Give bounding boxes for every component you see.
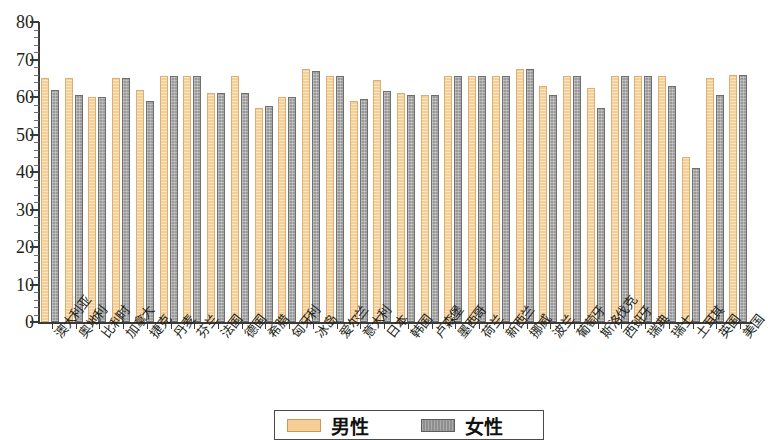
y-minor-tick-mark (34, 240, 39, 241)
y-minor-tick-mark (34, 165, 39, 166)
bar-female (621, 76, 629, 322)
y-minor-tick-mark (34, 307, 39, 308)
y-tick-mark (30, 209, 39, 211)
bar-male (278, 97, 286, 322)
bar-female (170, 76, 178, 322)
x-tick-mark (194, 323, 195, 329)
bar-group (562, 22, 586, 322)
bar-male (611, 76, 619, 322)
x-tick-mark (313, 323, 314, 329)
bar-male (136, 90, 144, 323)
x-tick-mark (455, 323, 456, 329)
x-tick-mark (99, 323, 100, 329)
bar-male (563, 76, 571, 322)
y-minor-tick-mark (34, 195, 39, 196)
y-tick-mark (30, 134, 39, 136)
x-tick-mark (479, 323, 480, 329)
bar-female (716, 95, 724, 322)
y-minor-tick-mark (34, 37, 39, 38)
bar-male (729, 75, 737, 323)
y-minor-tick-mark (34, 262, 39, 263)
x-tick-mark (550, 323, 551, 329)
bar-group (705, 22, 729, 322)
bar-male (302, 69, 310, 322)
bar-female (217, 93, 225, 322)
bar-male (207, 93, 215, 322)
bar-group (135, 22, 159, 322)
bar-group (301, 22, 325, 322)
y-tick-mark (30, 21, 39, 23)
legend-label-female: 女性 (465, 412, 503, 439)
x-tick-mark (171, 323, 172, 329)
y-minor-tick-mark (34, 292, 39, 293)
bar-group (467, 22, 491, 322)
x-axis-tick-labels: 澳大利亚奥地利比利时加拿大捷克丹麦芬兰法国德国希腊匈牙利冰岛爱尔兰意大利日本韩国… (0, 324, 755, 414)
bar-group (159, 22, 183, 322)
x-tick-mark (265, 323, 266, 329)
x-tick-mark (289, 323, 290, 329)
bar-group (277, 22, 301, 322)
y-minor-tick-mark (34, 90, 39, 91)
bar-group (64, 22, 88, 322)
y-minor-tick-mark (34, 217, 39, 218)
male-swatch-icon (287, 419, 321, 432)
bar-male (634, 76, 642, 322)
bar-female (478, 76, 486, 322)
x-tick-mark (360, 323, 361, 329)
bar-female (336, 76, 344, 322)
y-minor-tick-mark (34, 142, 39, 143)
bar-male (444, 76, 452, 322)
y-minor-tick-mark (34, 75, 39, 76)
bar-female (288, 97, 296, 322)
x-tick-mark (432, 323, 433, 329)
bar-group (610, 22, 634, 322)
bar-male (373, 80, 381, 322)
bar-female (122, 78, 130, 322)
bar-female (454, 76, 462, 322)
bar-female (193, 76, 201, 322)
y-minor-tick-mark (34, 30, 39, 31)
female-swatch-icon (421, 419, 455, 432)
y-minor-tick-mark (34, 225, 39, 226)
bar-group (349, 22, 373, 322)
bar-female (526, 69, 534, 322)
bar-female (739, 75, 747, 323)
y-minor-tick-mark (34, 120, 39, 121)
y-minor-tick-mark (34, 277, 39, 278)
bar-group (491, 22, 515, 322)
bar-female (597, 108, 605, 322)
bar-group (230, 22, 254, 322)
y-minor-tick-mark (34, 105, 39, 106)
bar-female (146, 101, 154, 322)
y-minor-tick-mark (34, 52, 39, 53)
bar-group (396, 22, 420, 322)
bar-female (407, 95, 415, 322)
bar-male (326, 76, 334, 322)
bar-male (397, 93, 405, 322)
bar-group (420, 22, 444, 322)
y-tick-mark (30, 59, 39, 61)
y-minor-tick-mark (34, 150, 39, 151)
bar-male (350, 101, 358, 322)
bar-group (633, 22, 657, 322)
bar-group (325, 22, 349, 322)
bar-female (502, 76, 510, 322)
bar-female (383, 91, 391, 322)
x-tick-mark (123, 323, 124, 329)
y-minor-tick-mark (34, 232, 39, 233)
legend-item-female: 女性 (421, 412, 503, 439)
bar-male (421, 95, 429, 322)
x-tick-mark (147, 323, 148, 329)
y-minor-tick-mark (34, 127, 39, 128)
bar-female (431, 95, 439, 322)
bar-male (658, 76, 666, 322)
bar-female (360, 99, 368, 322)
x-tick-mark (621, 323, 622, 329)
bar-group (443, 22, 467, 322)
legend-item-male: 男性 (287, 412, 369, 439)
x-tick-mark (693, 323, 694, 329)
bar-female (312, 71, 320, 322)
y-minor-tick-mark (34, 270, 39, 271)
bar-female (51, 90, 59, 323)
x-tick-mark (218, 323, 219, 329)
